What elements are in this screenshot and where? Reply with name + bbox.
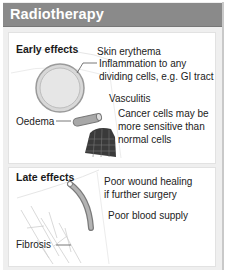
label-cancer-3: normal cells	[118, 133, 171, 146]
label-poor-blood-supply: Poor blood supply	[108, 209, 188, 222]
narrowed-vessel-icon	[68, 182, 92, 229]
late-effects-panel: Late effects Poor wound healing if furth…	[8, 167, 216, 267]
early-effects-title: Early effects	[16, 43, 78, 55]
figure-title: Radiotherapy	[10, 6, 104, 22]
label-fibrosis: Fibrosis	[16, 238, 51, 251]
label-poor-wound-healing-2: if further surgery	[104, 188, 177, 201]
figure-header: Radiotherapy	[3, 3, 222, 27]
tumour-mass-icon	[85, 128, 116, 157]
cell-circle-icon	[36, 64, 84, 112]
blood-vessel-icon	[72, 113, 102, 127]
label-cancer-1: Cancer cells may be	[118, 107, 209, 120]
label-vasculitis: Vasculitis	[109, 92, 151, 105]
early-effects-panel: Early effects Skin erythema Inflammation…	[8, 32, 216, 164]
fibrous-tissue-icon	[21, 206, 81, 264]
label-oedema: Oedema	[16, 115, 54, 128]
label-poor-wound-healing-1: Poor wound healing	[104, 175, 192, 188]
label-inflammation-2: dividing cells, e.g. GI tract	[99, 70, 214, 83]
late-effects-title: Late effects	[16, 171, 74, 183]
label-inflammation-1: Inflammation to any	[99, 57, 186, 70]
label-cancer-2: more sensitive than	[118, 120, 205, 133]
